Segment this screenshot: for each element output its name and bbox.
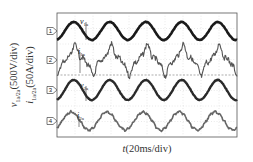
channel-marker-3: 3: [47, 87, 57, 94]
channel-markers: 1234: [47, 28, 57, 125]
y-axis-label-voltage: v1a/2a(500V/div): [8, 43, 24, 107]
y-axis-label: v1a/2a(500V/div) i1a/2a(50A/div): [4, 20, 44, 130]
channel-marker-2: 2: [47, 57, 57, 64]
x-axis-label: t(20ms/div): [57, 143, 237, 154]
channel-marker-1: 1: [47, 28, 57, 35]
y-axis-label-current: i1a/2a(50A/div): [24, 43, 40, 107]
channel-marker-4: 4: [47, 118, 57, 125]
